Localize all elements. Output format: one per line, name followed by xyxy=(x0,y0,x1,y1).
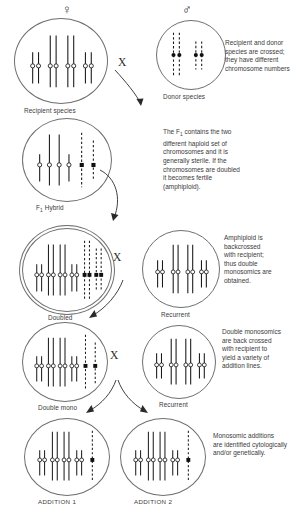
note-1-line: chromosome numbers xyxy=(225,65,296,74)
karyotype-addition-2 xyxy=(121,419,205,495)
male-symbol: ♂ xyxy=(182,3,192,16)
cross-3: X xyxy=(110,350,118,362)
note-4-line: addition lines. xyxy=(222,362,296,371)
note-4-line: yield a variety of xyxy=(222,354,296,363)
note-1: Recipient and donor species are crossed;… xyxy=(225,39,296,73)
cell-label-recurrent-2: Recurrent xyxy=(159,401,188,408)
note-2-line: (amphiploid). xyxy=(163,183,273,192)
note-4: Double monosomics are back crossed with … xyxy=(222,328,296,371)
cell-recurrent-1 xyxy=(142,230,220,308)
note-5: Monosomic additions are identified cytol… xyxy=(213,432,296,458)
cell-addition-2 xyxy=(120,418,206,496)
note-3-line: Amphiploid is xyxy=(224,234,294,243)
karyotype-recurrent-1 xyxy=(143,231,219,307)
note-2: The F1 contains the two different haploi… xyxy=(163,128,273,191)
note-3-line: monosomics are xyxy=(224,268,294,277)
note-4-line: with recipient to xyxy=(222,345,296,354)
cell-label-recipient-species: Recipient species xyxy=(24,107,76,114)
note-2-line: generally sterile. If the xyxy=(163,157,273,166)
cell-label-addition-1: ADDITION 1 xyxy=(38,498,76,505)
karyotype-donor-species xyxy=(157,21,225,89)
note-3-line: backcrossed xyxy=(224,243,294,252)
cell-donor-species xyxy=(156,20,226,90)
note-2-line: The F1 contains the two xyxy=(163,128,273,140)
note-3-line: thus double xyxy=(224,260,294,269)
note-3: Amphiploid is backcrossed with recipient… xyxy=(224,234,294,286)
note-2-line: chromosomes and it is xyxy=(163,148,273,157)
arrow-to-addition-2 xyxy=(112,378,162,420)
cell-label-addition-2: ADDITION 2 xyxy=(134,498,172,505)
cell-label-f1-hybrid: F1 Hybrid xyxy=(36,204,64,213)
note-4-line: Double monosomics xyxy=(222,328,296,337)
note-2-line: it becomes fertile xyxy=(163,174,273,183)
arrow-to-f1-hybrid xyxy=(110,68,150,114)
cell-label-recurrent-1: Recurrent xyxy=(161,311,190,318)
note-2-line: chromosomes are doubled xyxy=(163,166,273,175)
karyotype-addition-1 xyxy=(25,419,109,495)
note-1-line: Recipient and donor xyxy=(225,39,296,48)
note-1-line: species are crossed; xyxy=(225,48,296,57)
female-symbol: ♀ xyxy=(62,3,72,16)
note-5-line: Monosomic additions xyxy=(213,432,296,441)
cell-label-doubled: Doubled xyxy=(48,314,73,321)
note-2-line: different haploid set of xyxy=(163,140,273,149)
karyotype-recipient-species xyxy=(15,19,107,103)
note-3-line: obtained. xyxy=(224,277,294,286)
cell-recipient-species xyxy=(14,18,108,104)
cell-addition-1 xyxy=(24,418,110,496)
note-5-line: and/or genetically. xyxy=(213,449,296,458)
cross-2: X xyxy=(113,252,121,264)
note-1-line: they have different xyxy=(225,56,296,65)
arrow-to-doubled xyxy=(96,168,132,230)
note-5-line: are identified cytologically xyxy=(213,441,296,450)
arrow-to-double-mono xyxy=(82,278,128,326)
cell-label-donor-species: Donor species xyxy=(163,93,205,100)
note-3-line: with recipient; xyxy=(224,251,294,260)
diagram-canvas: ♀ Recipient species ♂ xyxy=(0,0,296,517)
cross-1: X xyxy=(118,57,126,69)
note-4-line: are back crossed xyxy=(222,337,296,346)
